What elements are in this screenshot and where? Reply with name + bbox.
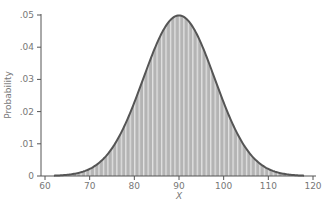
y-ticks: 0.01.02.03.04.05 [20,10,41,181]
plot-area [54,15,304,176]
x-tick-label: 80 [129,181,141,191]
normal-distribution-chart: 0.01.02.03.04.05 60708090100110120 X Pro… [0,0,329,204]
x-tick-label: 90 [173,181,185,191]
x-tick-label: 110 [260,181,277,191]
x-ticks: 60708090100110120 [39,176,322,191]
y-tick-label: .05 [20,10,34,20]
y-axis-title: Probability [3,71,13,119]
y-tick-label: 0 [28,171,34,181]
y-tick-label: .01 [20,139,34,149]
x-tick-label: 60 [39,181,51,191]
y-tick-label: .03 [20,74,34,84]
y-tick-label: .02 [20,107,34,117]
x-tick-label: 70 [84,181,96,191]
x-tick-label: 120 [304,181,321,191]
x-axis-title: X [175,191,183,201]
y-tick-label: .04 [20,42,35,52]
x-tick-label: 100 [215,181,232,191]
distribution-area [54,15,304,176]
